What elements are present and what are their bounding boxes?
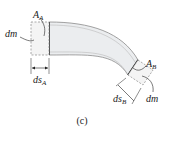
label-dm-b: dm [146, 93, 158, 104]
label-dm-a: dm [5, 28, 17, 39]
fluid-stream-tube-diagram: AA dm dsA AB dsB dm (c) [0, 0, 174, 142]
label-area-a: AA [32, 9, 44, 22]
inlet-mass-element [31, 22, 49, 55]
figure-caption: (c) [76, 115, 87, 127]
ds-b-ext-1 [116, 78, 126, 86]
label-ds-a: dsA [33, 74, 47, 87]
label-ds-b: dsB [113, 93, 127, 106]
ds-b-ext-2 [132, 88, 141, 104]
